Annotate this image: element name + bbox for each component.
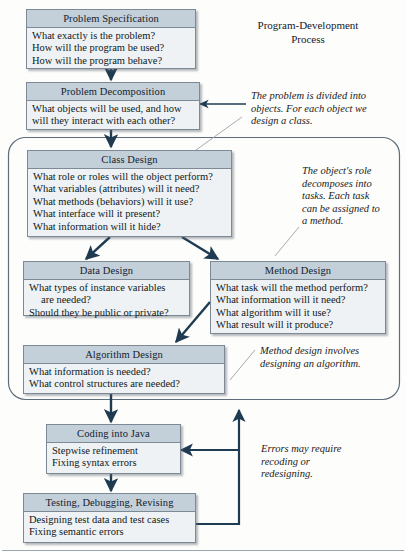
node-line: What information will it need? bbox=[216, 294, 380, 306]
node-line: What variables (attributes) will it need… bbox=[33, 183, 226, 195]
node-class-design[interactable]: Class Design What role or roles will the… bbox=[27, 150, 232, 237]
node-testing-debugging-revising[interactable]: Testing, Debugging, Revising Designing t… bbox=[23, 493, 196, 543]
node-title: Testing, Debugging, Revising bbox=[24, 494, 195, 512]
node-line: What interface will it present? bbox=[33, 208, 226, 220]
node-body: What exactly is the problem? How will th… bbox=[27, 28, 195, 70]
annotation-line: decomposes into bbox=[302, 178, 406, 191]
annotation-line: objects. For each object we bbox=[251, 103, 401, 116]
node-title: Class Design bbox=[28, 151, 231, 169]
node-line: What result will it produce? bbox=[216, 319, 380, 331]
leader-method-design bbox=[230, 350, 255, 380]
arrow-class-to-method bbox=[182, 237, 218, 259]
node-line: Fixing syntax errors bbox=[52, 457, 175, 469]
annotation-line: a method. bbox=[302, 215, 406, 228]
node-algorithm-design[interactable]: Algorithm Design What information is nee… bbox=[23, 345, 225, 394]
node-line: will they interact with each other? bbox=[32, 115, 194, 127]
annotation-errors: Errors may require recoding or redesigni… bbox=[261, 443, 396, 481]
annotation-line: Method design involves bbox=[260, 345, 405, 358]
node-body: What information is needed? What control… bbox=[24, 364, 224, 394]
node-line: What information will it hide? bbox=[33, 221, 226, 233]
node-body: Stepwise refinement Fixing syntax errors bbox=[47, 443, 180, 473]
node-line: What types of instance variables bbox=[29, 282, 184, 294]
diagram-canvas: Program-Development Process Problem Spec… bbox=[0, 0, 406, 553]
node-problem-decomposition[interactable]: Problem Decomposition What objects will … bbox=[26, 82, 200, 130]
arrow-feedback-to-design bbox=[196, 410, 239, 524]
annotation-line: tasks. Each task bbox=[302, 190, 406, 203]
annotation-line: recoding or bbox=[261, 456, 396, 469]
node-line: Stepwise refinement bbox=[52, 445, 175, 457]
annotation-line: redesigning. bbox=[261, 468, 396, 481]
node-line: Fixing semantic errors bbox=[29, 526, 190, 538]
node-title: Algorithm Design bbox=[24, 346, 224, 364]
annotation-problem-decomposition: The problem is divided into objects. For… bbox=[251, 90, 401, 128]
leader-decomposition-diagonal bbox=[196, 117, 242, 150]
annotation-method-design: Method design involves designing an algo… bbox=[260, 345, 405, 370]
node-line: What control structures are needed? bbox=[29, 378, 219, 390]
diagram-title-line2: Process bbox=[228, 32, 388, 46]
node-title: Coding into Java bbox=[47, 425, 180, 443]
node-line: are needed? bbox=[29, 294, 184, 306]
node-line: What methods (behaviors) will it use? bbox=[33, 196, 226, 208]
annotation-line: designing an algorithm. bbox=[260, 358, 405, 371]
node-title: Problem Decomposition bbox=[27, 83, 199, 101]
arrow-class-to-data bbox=[86, 237, 110, 259]
annotation-line: The object's role bbox=[302, 165, 406, 178]
diagram-title: Program-Development Process bbox=[228, 18, 388, 46]
node-body: What types of instance variables are nee… bbox=[24, 280, 189, 322]
node-title: Data Design bbox=[24, 262, 189, 280]
leader-class-role bbox=[275, 227, 299, 256]
node-line: How will the program be used? bbox=[32, 42, 190, 54]
bottom-rule bbox=[2, 550, 404, 551]
annotation-line: The problem is divided into bbox=[251, 90, 401, 103]
annotation-class-role: The object's role decomposes into tasks.… bbox=[302, 165, 406, 228]
annotation-line: design a class. bbox=[251, 115, 401, 128]
node-line: How will the program behave? bbox=[32, 55, 190, 67]
node-data-design[interactable]: Data Design What types of instance varia… bbox=[23, 261, 190, 316]
node-line: What exactly is the problem? bbox=[32, 30, 190, 42]
node-line: What task will the method perform? bbox=[216, 282, 380, 294]
node-line: Should they be public or private? bbox=[29, 307, 184, 319]
node-line: Designing test data and test cases bbox=[29, 514, 190, 526]
node-body: What objects will be used, and how will … bbox=[27, 101, 199, 131]
node-line: What algorithm will it use? bbox=[216, 307, 380, 319]
node-line: What objects will be used, and how bbox=[32, 103, 194, 115]
node-coding-into-java[interactable]: Coding into Java Stepwise refinement Fix… bbox=[46, 424, 181, 474]
node-body: What task will the method perform? What … bbox=[211, 280, 385, 335]
node-body: Designing test data and test cases Fixin… bbox=[24, 512, 195, 542]
node-line: What information is needed? bbox=[29, 366, 219, 378]
node-line: What role or roles will the object perfo… bbox=[33, 171, 226, 183]
node-title: Method Design bbox=[211, 262, 385, 280]
annotation-line: Errors may require bbox=[261, 443, 396, 456]
diagram-title-line1: Program-Development bbox=[228, 18, 388, 32]
node-body: What role or roles will the object perfo… bbox=[28, 169, 231, 236]
node-title: Problem Specification bbox=[27, 10, 195, 28]
annotation-line: can be assigned to bbox=[302, 203, 406, 216]
node-method-design[interactable]: Method Design What task will the method … bbox=[210, 261, 386, 334]
node-problem-specification[interactable]: Problem Specification What exactly is th… bbox=[26, 9, 196, 69]
